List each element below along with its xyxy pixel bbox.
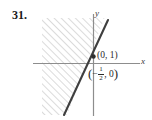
y-axis-label: y [95,8,99,18]
x-axis-label: x [141,56,145,66]
coordinate-rest: , 0 [104,69,114,79]
fraction-numerator: 1 [98,66,104,73]
point-marker-y-intercept [91,54,95,58]
fraction-denominator: 2 [98,75,104,82]
coordinate-plane-figure [0,0,152,120]
paren-close: ) [114,66,118,81]
fraction-one-half: 12 [98,66,104,82]
paren-open: ( [88,66,92,81]
point-label-y-intercept: (0, 1) [97,50,118,60]
figure-screenshot: 31. y x (0, 1) (−12, 0) [0,0,152,120]
point-label-x-intercept: (−12, 0) [88,66,118,83]
minus-sign: − [92,69,97,79]
